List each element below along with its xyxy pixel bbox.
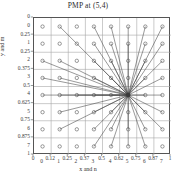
axis-tick-layer: 00.250.250.3750.50.6250.750.875101234567… xyxy=(0,0,176,175)
y-axis-title: y and m xyxy=(0,37,5,56)
tick-marks xyxy=(0,0,176,175)
chart-figure: PMP at (5,4) 00.250.250.3750.50.6250.750… xyxy=(0,0,176,175)
x-axis-title: x and n xyxy=(0,166,176,172)
